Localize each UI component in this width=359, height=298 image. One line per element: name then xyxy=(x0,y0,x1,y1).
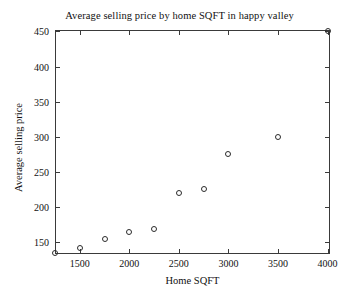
x-tick-label: 4000 xyxy=(303,258,353,269)
data-point xyxy=(151,226,157,232)
data-point xyxy=(275,134,281,140)
y-tick-label: 300 xyxy=(3,131,49,142)
chart-figure: Average selling price by home SQFT in ha… xyxy=(0,0,359,298)
data-point xyxy=(102,236,108,242)
x-axis-label: Home SQFT xyxy=(55,275,330,286)
y-tick-label: 250 xyxy=(3,166,49,177)
data-point xyxy=(176,190,182,196)
y-tick-label: 450 xyxy=(3,26,49,37)
y-tick-label: 400 xyxy=(3,61,49,72)
data-point xyxy=(77,245,83,251)
y-tick-label: 350 xyxy=(3,96,49,107)
data-point xyxy=(325,28,331,34)
chart-title: Average selling price by home SQFT in ha… xyxy=(0,10,359,21)
data-point xyxy=(201,186,207,192)
y-axis-label: Average selling price xyxy=(13,68,24,228)
data-point xyxy=(126,229,132,235)
y-tick-label: 150 xyxy=(3,237,49,248)
y-tick-label: 200 xyxy=(3,201,49,212)
data-point xyxy=(52,250,58,256)
x-tick-label: 3500 xyxy=(253,258,303,269)
x-tick-label: 2000 xyxy=(104,258,154,269)
x-tick-label: 1500 xyxy=(55,258,105,269)
data-point xyxy=(225,151,231,157)
x-tick-label: 2500 xyxy=(154,258,204,269)
x-tick-label: 3000 xyxy=(203,258,253,269)
scatter-plot-area xyxy=(55,30,330,254)
